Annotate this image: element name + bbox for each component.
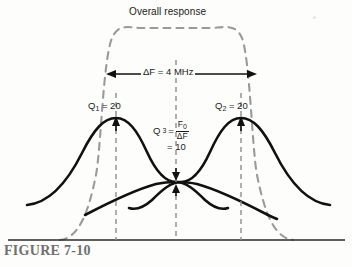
q1-subscript: 1 [95,105,99,112]
scan-speck [313,16,316,19]
caption-sliver-text [4,261,214,267]
q3-label: Q3 = F0 ΔF = 10 [153,120,189,152]
figure-container: Overall response ΔF = 4 MHz Q1 = 20 Q2 =… [0,0,352,267]
figure-caption: FIGURE 7-10 [4,243,91,259]
q2-value: = 20 [229,100,248,111]
q3-subscript: 3 [162,127,166,134]
q2-subscript: 2 [222,105,226,112]
q3-result: = 10 [167,142,189,152]
q3-numerator-subscript: 0 [183,123,187,130]
overall-response-label: Overall response [129,6,206,17]
q2-label: Q2 = 20 [215,100,248,112]
q1-label: Q1 = 20 [88,100,121,112]
q1-value: = 20 [102,100,121,111]
q3-symbol: Q [153,126,160,136]
q3-response-curve [85,182,277,219]
q3-fraction: F0 ΔF [176,120,189,142]
q3-equation-row: Q3 = F0 ΔF [153,120,189,142]
bandwidth-label: ΔF = 4 MHz [141,66,195,77]
q3-equals: = [168,126,174,136]
